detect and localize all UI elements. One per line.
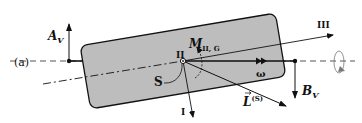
S-label: S bbox=[154, 75, 163, 89]
pivot-dot bbox=[182, 60, 184, 62]
axis-II-label: II bbox=[176, 50, 184, 60]
rotating-body-diagram: (a) AV BV MII, G L(S) ω S II I III bbox=[0, 0, 362, 123]
rotation-sense-arrowhead bbox=[338, 66, 345, 72]
axis-I-label: I bbox=[181, 107, 185, 117]
omega-label: ω bbox=[256, 68, 266, 79]
axis-III-label: III bbox=[317, 20, 330, 30]
panel-label: (a) bbox=[14, 56, 29, 69]
L-label: L(S) bbox=[242, 94, 263, 109]
B-v-label: BV bbox=[301, 84, 319, 100]
A-v-label: AV bbox=[47, 29, 64, 45]
